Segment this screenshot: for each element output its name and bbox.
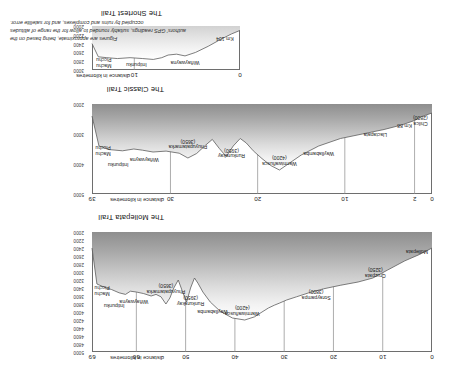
x-tick-label: 39 [88, 196, 95, 203]
point-label: MachuPicchu [96, 145, 111, 156]
point-label-line: Warmiwañusca [225, 311, 260, 317]
elevation-tick-label: 3200 [73, 278, 84, 283]
point-label-line: Machu [96, 151, 111, 157]
point-label-line: Runkurakay [218, 153, 245, 159]
elevation-tick-label: 2600 [73, 50, 84, 55]
x-axis-caption-mollepata: distance in kilometres [110, 355, 164, 361]
x-tick-label: 10 [379, 354, 386, 361]
point-label: Warmiwañusca(4200) [225, 305, 260, 316]
point-label-line: Wayllabamba [197, 309, 228, 315]
elevation-tick-label: 2800 [73, 262, 84, 267]
x-tick-label: 0 [430, 354, 434, 361]
elevation-tick-label: 4000 [73, 162, 84, 167]
x-tick-label: 30 [167, 196, 174, 203]
point-label: Runkurakay(3950) [218, 148, 245, 159]
point-label: MachuPicchu [94, 285, 109, 296]
point-label-line: Wayllabamba [303, 151, 334, 157]
x-tick-label: 20 [254, 196, 261, 203]
point-label-line: Picchu [94, 285, 109, 291]
profile-area-mollepata [92, 232, 432, 352]
x-tick-label: 0 [238, 72, 242, 79]
point-label-line: Picchu [96, 57, 111, 63]
x-tick-label: 10 [131, 72, 138, 79]
point-label: Phuyupatamarka(3650) [147, 283, 186, 294]
point-label-line: Phuyupatamarka [147, 289, 186, 295]
point-label-line: Km 88 [397, 123, 412, 129]
point-label-line: Picchu [96, 145, 111, 151]
point-label-line: Runkurakay [177, 301, 204, 307]
point-label-line: Machu [94, 291, 109, 297]
x-tick-label: 69 [88, 354, 95, 361]
elevation-tick-label: 4000 [73, 310, 84, 315]
point-label: Wiñaywayna [130, 157, 159, 163]
elevation-profiles-plate: 010203040506069 200022002400260028003000… [0, 0, 468, 366]
x-tick-label: 20 [330, 354, 337, 361]
point-label: Chilca(2800) [413, 115, 428, 126]
profile-area-classic [92, 104, 432, 194]
elevation-tick-label: 2000 [73, 230, 84, 235]
x-axis-caption-classic: distance in kilometres [110, 197, 164, 203]
point-label-line: Wiñaywayna [130, 157, 159, 163]
x-axis-caption-shortest: distance in kilometres [76, 73, 130, 79]
point-label: Soraypampa(3800) [302, 289, 331, 300]
chart-title-shortest: The Shortest Trail [101, 9, 162, 18]
x-tick-label: 2 [413, 196, 417, 203]
elevation-tick-label: 2000 [73, 102, 84, 107]
point-label-line: Mollepata [406, 249, 428, 255]
elevation-tick-label: 3000 [73, 132, 84, 137]
x-tick-label: 40 [231, 354, 238, 361]
point-label: Runkurakay(3950) [177, 295, 204, 306]
point-label-line: Warmiwañusca [262, 161, 297, 167]
point-label-line: Wiñaywayna [171, 59, 200, 65]
footnote-line: authors' GPS readings, suitably rounded … [10, 26, 242, 34]
point-label: Phuyupatamarka(3650) [169, 139, 208, 150]
elevation-tick-label: 2600 [73, 254, 84, 259]
point-label-line: Intipunku [104, 302, 125, 308]
point-label: Km 88 [397, 123, 412, 129]
chart-mollepata-trail: 010203040506069 200022002400260028003000… [38, 216, 432, 352]
point-label-line: Intipunku [108, 161, 129, 167]
elevation-tick-label: 4800 [73, 342, 84, 347]
point-label-line: Llactapata [364, 132, 388, 138]
figure-footnote: Figures are approximate, being based on … [10, 19, 242, 42]
point-label: Wayllabamba [303, 151, 334, 157]
footnote-line: occupied by ruins and complexes, and for… [10, 19, 242, 27]
point-label: MachuPicchu [96, 57, 111, 68]
elevation-tick-label: 5000 [73, 192, 84, 197]
x-tick-label: 10 [341, 196, 348, 203]
elevation-tick-label: 2800 [73, 59, 84, 64]
elevation-tick-label: 4200 [73, 318, 84, 323]
x-tick-label: 50 [182, 354, 189, 361]
elevation-tick-label: 3400 [73, 286, 84, 291]
point-label: Intipunku [104, 302, 125, 308]
point-label-line: Chilca [413, 121, 428, 127]
elevation-tick-label: 4600 [73, 334, 84, 339]
elevation-tick-label: 3000 [73, 68, 84, 73]
point-label: Mollepata [406, 249, 428, 255]
chart-title-classic: The Classic Trail [107, 85, 164, 94]
x-tick-label: 30 [281, 354, 288, 361]
point-label: Llactapata [364, 132, 388, 138]
point-label: Intipunku [126, 61, 147, 67]
point-label: Wayllabamba [197, 309, 228, 315]
point-label-line: (3250) [365, 267, 386, 273]
point-label-line: Cruzpata [365, 273, 386, 279]
point-label: Cruzpata(3250) [365, 267, 386, 278]
elevation-tick-label: 4400 [73, 326, 84, 331]
point-label-line: Intipunku [126, 61, 147, 67]
point-label-line: Soraypampa [302, 295, 331, 301]
footnote-line: Figures are approximate, being based on … [10, 34, 242, 42]
elevation-tick-label: 2200 [73, 238, 84, 243]
point-label-line: Machu [96, 62, 111, 68]
point-label: Wiñaywayna [171, 59, 200, 65]
elevation-tick-label: 5000 [73, 350, 84, 355]
elevation-tick-label: 2400 [73, 246, 84, 251]
point-label-line: Phuyupatamarka [169, 144, 208, 150]
elevation-tick-label: 3600 [73, 294, 84, 299]
point-label: Warmiwañusca(4200) [262, 155, 297, 166]
x-tick-label: 0 [430, 196, 434, 203]
elevation-tick-label: 3000 [73, 270, 84, 275]
point-label: Intipunku [108, 161, 129, 167]
chart-classic-trail: 0210203039 2000300040005000 Chilca(2800)… [38, 82, 432, 194]
point-label-line: (2800) [413, 115, 428, 121]
